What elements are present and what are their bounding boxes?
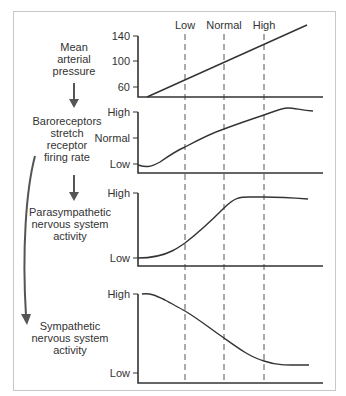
svg-text:100: 100 — [112, 55, 130, 67]
svg-text:receptor: receptor — [47, 139, 88, 151]
svg-text:activity: activity — [53, 230, 87, 242]
chart-baroreceptors: High Normal Low — [95, 106, 323, 173]
svg-text:stretch: stretch — [50, 127, 83, 139]
svg-text:Low: Low — [110, 367, 130, 379]
svg-text:Baroreceptors: Baroreceptors — [32, 115, 102, 127]
svg-text:Low: Low — [110, 252, 130, 264]
svg-text:60: 60 — [118, 81, 130, 93]
svg-text:High: High — [253, 19, 276, 31]
svg-text:nervous system: nervous system — [31, 218, 108, 230]
svg-text:Parasympathetic: Parasympathetic — [29, 206, 111, 218]
chart-map: 140 100 60 — [112, 25, 323, 97]
svg-text:arterial: arterial — [57, 53, 91, 65]
svg-text:Normal: Normal — [206, 19, 241, 31]
svg-text:High: High — [107, 288, 130, 300]
flow-step-sympathetic: Sympathetic nervous system activity — [31, 320, 108, 356]
svg-text:Mean: Mean — [60, 41, 88, 53]
flow-step-map: Mean arterial pressure — [53, 41, 96, 77]
baroreceptor-diagram: Mean arterial pressure Baroreceptors str… — [0, 0, 346, 396]
svg-text:Low: Low — [175, 19, 195, 31]
svg-text:140: 140 — [112, 30, 130, 42]
flow-arrow-2 — [69, 175, 79, 201]
svg-text:Normal: Normal — [95, 132, 130, 144]
svg-text:firing rate: firing rate — [44, 151, 90, 163]
reference-lines — [185, 34, 264, 383]
svg-text:pressure: pressure — [53, 65, 96, 77]
svg-text:nervous system: nervous system — [31, 332, 108, 344]
svg-text:High: High — [107, 187, 130, 199]
svg-text:High: High — [107, 106, 130, 118]
flow-arrow-1 — [69, 83, 79, 108]
chart-sympathetic: High Low — [107, 288, 323, 383]
flow-step-parasympathetic: Parasympathetic nervous system activity — [29, 206, 111, 242]
svg-text:Sympathetic: Sympathetic — [40, 320, 101, 332]
flow-arrow-curved — [21, 156, 35, 325]
svg-text:activity: activity — [53, 344, 87, 356]
flow-step-baroreceptors: Baroreceptors stretch receptor firing ra… — [32, 115, 102, 163]
column-labels: Low Normal High — [175, 19, 275, 31]
svg-text:Low: Low — [110, 158, 130, 170]
chart-parasympathetic: High Low — [107, 187, 323, 266]
